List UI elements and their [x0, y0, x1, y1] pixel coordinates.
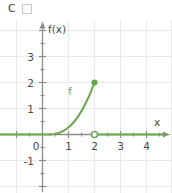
open-endpoint-circle	[92, 132, 98, 138]
x-axis-label: x	[154, 116, 160, 128]
y-tick-label-3: 3	[27, 51, 34, 63]
curve-label: f	[68, 86, 72, 97]
answer-checkbox[interactable]	[22, 4, 32, 14]
y-axis	[40, 22, 46, 193]
x-tick-label-0: 0	[33, 140, 40, 152]
y-tick-label-neg1: -1	[24, 155, 34, 167]
x-tick-label-2: 2	[91, 140, 98, 152]
grid-vertical	[17, 20, 172, 193]
function-graph: f f(x) x 3 2 1 -1 0 1 2 3 4	[0, 20, 172, 193]
option-letter: C	[8, 2, 16, 16]
graph-svg: f f(x) x 3 2 1 -1 0 1 2 3 4	[0, 20, 172, 193]
x-tick-label-1: 1	[65, 140, 72, 152]
x-tick-label-3: 3	[117, 140, 124, 152]
y-axis-label: f(x)	[48, 23, 66, 35]
y-tick-label-2: 2	[27, 77, 34, 89]
closed-endpoint-dot	[91, 79, 97, 85]
option-header: C	[0, 0, 172, 20]
x-tick-label-4: 4	[143, 140, 150, 152]
graph-card: C	[0, 0, 172, 193]
y-tick-label-1: 1	[27, 103, 34, 115]
